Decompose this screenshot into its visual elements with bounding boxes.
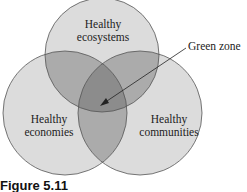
label-economies: Healthy economies <box>18 113 80 139</box>
label-communities: Healthy communities <box>134 113 204 139</box>
label-line: communities <box>134 126 204 139</box>
label-line: ecosystems <box>72 31 134 44</box>
label-line: Healthy <box>134 113 204 126</box>
label-line: Healthy <box>72 18 134 31</box>
label-line: economies <box>18 126 80 139</box>
label-line: Healthy <box>18 113 80 126</box>
green-zone-label: Green zone <box>188 40 247 53</box>
figure-caption: Figure 5.11 <box>0 178 68 192</box>
label-ecosystems: Healthy ecosystems <box>72 18 134 44</box>
